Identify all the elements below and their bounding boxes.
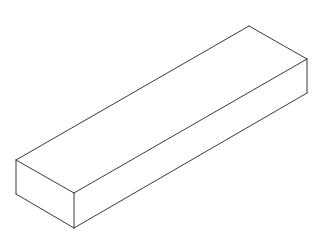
isometric-box-drawing: [0, 0, 322, 239]
box-faces: [16, 26, 307, 228]
